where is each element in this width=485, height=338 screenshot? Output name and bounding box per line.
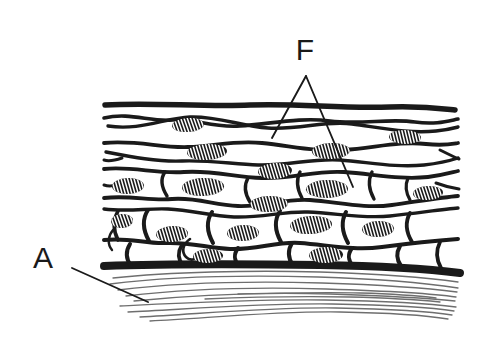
histology-diagram-canvas: F A xyxy=(0,0,485,338)
histology-figure: F A xyxy=(0,0,485,338)
label-f: F xyxy=(296,33,314,66)
label-a: A xyxy=(33,241,53,274)
